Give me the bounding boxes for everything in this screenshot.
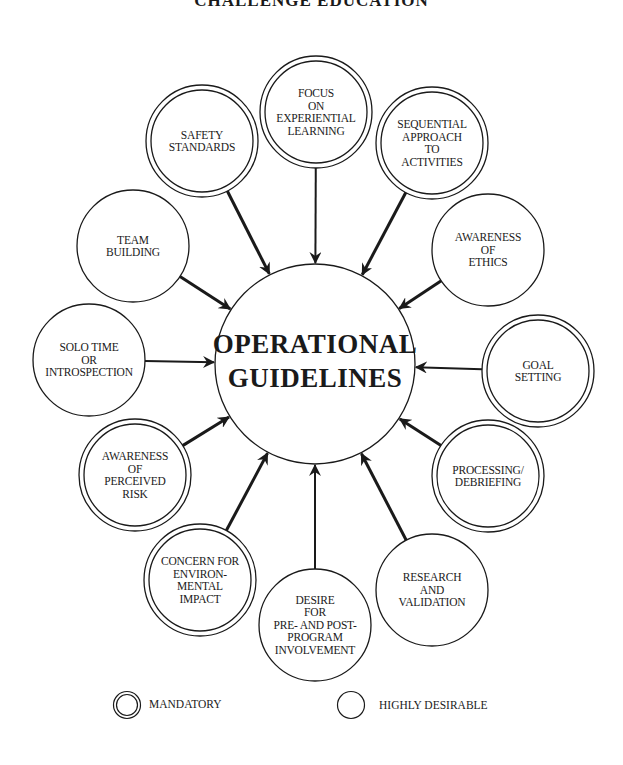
legend-mandatory-label: MANDATORY <box>149 698 222 710</box>
center-node-label: OPERATIONAL GUIDELINES <box>205 327 425 395</box>
node-label-line: RESEARCH <box>399 571 466 584</box>
node-label-research: RESEARCHANDVALIDATION <box>376 534 488 646</box>
node-label-line: STANDARDS <box>169 141 235 154</box>
double-circle-icon <box>112 690 142 720</box>
node-label-line: ETHICS <box>455 256 521 269</box>
node-label-focus: FOCUSONEXPERIENTIALLEARNING <box>260 56 372 168</box>
center-line-1: OPERATIONAL <box>205 327 425 361</box>
node-label-line: GOAL <box>515 359 562 372</box>
node-label-line: AWARENESS <box>455 231 521 244</box>
node-label-solo: SOLO TIMEORINTROSPECTION <box>33 304 145 416</box>
node-label-line: CONCERN FOR <box>161 555 239 568</box>
node-label-line: VALIDATION <box>399 596 466 609</box>
node-label-line: ENVIRON- <box>161 568 239 581</box>
node-label-line: SAFETY <box>169 129 235 142</box>
node-label-line: OF <box>455 244 521 257</box>
node-label-line: TEAM <box>106 234 160 247</box>
node-label-line: ON <box>276 100 355 113</box>
node-label-processing: PROCESSING/DEBRIEFING <box>432 420 544 532</box>
node-label-line: SEQUENTIAL <box>397 118 467 131</box>
node-label-line: FOCUS <box>276 87 355 100</box>
node-label-sequential: SEQUENTIALAPPROACHTOACTIVITIES <box>376 87 488 199</box>
node-label-line: SOLO TIME <box>45 341 133 354</box>
arrow-research <box>361 454 406 541</box>
node-label-line: INTROSPECTION <box>45 366 133 379</box>
node-label-line: AWARENESS <box>102 450 168 463</box>
node-label-line: DEBRIEFING <box>452 476 523 489</box>
node-label-line: MENTAL <box>161 580 239 593</box>
node-label-line: PROGRAM <box>273 631 356 644</box>
node-label-line: PROCESSING/ <box>452 464 523 477</box>
node-label-line: DESIRE <box>273 594 356 607</box>
node-label-line: LEARNING <box>276 125 355 138</box>
node-label-line: AND <box>399 584 466 597</box>
node-label-line: BUILDING <box>106 246 160 259</box>
node-label-line: IMPACT <box>161 593 239 606</box>
arrow-sequential <box>362 192 406 274</box>
node-label-line: PRE- AND POST- <box>273 619 356 632</box>
node-label-desire: DESIREFORPRE- AND POST-PROGRAMINVOLVEMEN… <box>259 569 371 681</box>
node-label-team: TEAMBUILDING <box>77 190 189 302</box>
node-label-line: OF <box>102 463 168 476</box>
node-label-line: TO <box>397 143 467 156</box>
node-label-concern: CONCERN FORENVIRON-MENTALIMPACT <box>144 524 256 636</box>
node-label-line: SETTING <box>515 371 562 384</box>
center-line-2: GUIDELINES <box>205 361 425 395</box>
node-label-line: PERCEIVED <box>102 475 168 488</box>
node-label-line: FOR <box>273 606 356 619</box>
node-label-line: INVOLVEMENT <box>273 644 356 657</box>
legend-desirable-label: HIGHLY DESIRABLE <box>379 699 488 711</box>
node-label-goal: GOALSETTING <box>482 315 594 427</box>
arrow-safety <box>227 191 269 274</box>
arrow-concern <box>226 453 267 530</box>
node-label-line: OR <box>45 354 133 367</box>
single-circle-icon <box>336 690 366 720</box>
node-label-line: RISK <box>102 488 168 501</box>
arrow-solo <box>145 361 214 362</box>
node-label-line: APPROACH <box>397 131 467 144</box>
node-label-line: EXPERIENTIAL <box>276 112 355 125</box>
node-label-line: ACTIVITIES <box>397 156 467 169</box>
arrow-goal <box>416 367 482 369</box>
node-label-safety: SAFETYSTANDARDS <box>146 85 258 197</box>
node-label-ethics: AWARENESSOFETHICS <box>432 194 544 306</box>
node-label-perceived-risk: AWARENESSOFPERCEIVEDRISK <box>79 419 191 531</box>
